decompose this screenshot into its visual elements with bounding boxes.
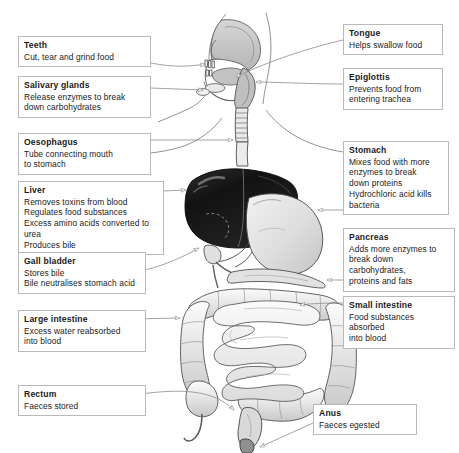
callout-line: Faeces stored [24, 401, 140, 412]
callout-title: Gall bladder [24, 256, 140, 267]
callout-oesophagus[interactable]: Oesophagus Tube connecting mouth to stom… [18, 133, 151, 175]
callout-line: down proteins [349, 178, 443, 189]
callout-line: Cut, tear and grind food [24, 52, 145, 63]
callout-line: proteins and fats [349, 276, 449, 287]
callout-teeth[interactable]: Teeth Cut, tear and grind food [18, 36, 151, 67]
callout-gall-bladder[interactable]: Gall bladder Stores bile Bile neutralise… [18, 252, 146, 294]
pancreas-organ [227, 269, 325, 288]
callout-title: Teeth [24, 40, 145, 51]
callout-line: Stores bile [24, 268, 140, 279]
callout-line: Produces bile [24, 240, 158, 251]
callout-title: Epiglottis [349, 72, 437, 83]
anus-organ [240, 439, 254, 453]
callout-line: entering trachea [349, 94, 437, 105]
callout-line: Mixes food with more [349, 157, 443, 168]
callout-title: Small intestine [349, 300, 449, 311]
callout-title: Salivary glands [24, 80, 145, 91]
callout-title: Rectum [24, 389, 140, 400]
callout-line: Removes toxins from blood [24, 197, 158, 208]
callout-line: break down carbohydrates, [349, 254, 449, 276]
callout-epiglottis[interactable]: Epiglottis Prevents food from entering t… [343, 68, 443, 110]
callout-line: bacteria [349, 200, 443, 211]
callout-line: Adds more enzymes to [349, 244, 449, 255]
callout-line: Helps swallow food [349, 40, 437, 51]
callout-line: Excess water reabsorbed [24, 326, 140, 337]
callout-line: Bile neutralises stomach acid [24, 278, 140, 289]
callout-rectum[interactable]: Rectum Faeces stored [18, 385, 146, 416]
callout-salivary-glands[interactable]: Salivary glands Release enzymes to break… [18, 76, 151, 118]
callout-title: Oesophagus [24, 137, 145, 148]
appendix [184, 414, 202, 441]
callout-stomach[interactable]: Stomach Mixes food with more enzymes to … [343, 141, 449, 215]
callout-line: Food substances absorbed [349, 312, 449, 334]
callout-small-intestine[interactable]: Small intestine Food substances absorbed… [343, 296, 455, 349]
callout-line: enzymes to break [349, 167, 443, 178]
trachea [235, 108, 248, 142]
callout-line: Excess amino acids converted to urea [24, 218, 158, 240]
callout-line: Faeces egested [319, 420, 411, 431]
callout-title: Pancreas [349, 232, 449, 243]
callout-pancreas[interactable]: Pancreas Adds more enzymes to break down… [343, 228, 455, 292]
callout-tongue[interactable]: Tongue Helps swallow food [343, 24, 443, 55]
callout-title: Large intestine [24, 314, 140, 325]
callout-title: Liver [24, 185, 158, 196]
small-intestine-organ [213, 301, 320, 401]
callout-line: Prevents food from [349, 84, 437, 95]
callout-line: Regulates food substances [24, 207, 158, 218]
callout-line: Release enzymes to break [24, 92, 145, 103]
callout-title: Anus [319, 408, 411, 419]
digestive-system-diagram: Teeth Cut, tear and grind food Salivary … [0, 0, 459, 453]
callout-title: Tongue [349, 28, 437, 39]
callout-anus[interactable]: Anus Faeces egested [313, 404, 417, 435]
callout-line: into blood [349, 333, 449, 344]
callout-line: Hydrochloric acid kills [349, 189, 443, 200]
callout-large-intestine[interactable]: Large intestine Excess water reabsorbed … [18, 310, 146, 352]
callout-line: down carbohydrates [24, 102, 145, 113]
callout-line: to stomach [24, 159, 145, 170]
callout-line: Tube connecting mouth [24, 149, 145, 160]
callout-liver[interactable]: Liver Removes toxins from blood Regulate… [18, 181, 164, 255]
callout-title: Stomach [349, 145, 443, 156]
callout-line: into blood [24, 336, 140, 347]
